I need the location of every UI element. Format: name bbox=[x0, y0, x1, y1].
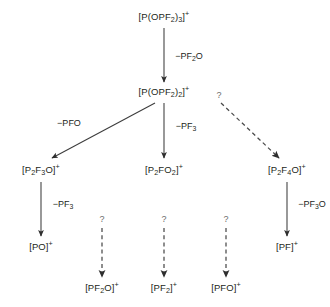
edge-n2-to-n5 bbox=[221, 103, 279, 158]
node-n10: [PF]+ bbox=[276, 242, 298, 252]
edge-label-unknown-e8: ? bbox=[223, 215, 228, 224]
edge-label-unknown-e4: ? bbox=[216, 91, 221, 100]
edge-n2-to-n3 bbox=[52, 103, 155, 158]
node-n3: [P2F3O]+ bbox=[22, 165, 60, 175]
node-n9: [PFO]+ bbox=[211, 283, 241, 293]
edge-layer bbox=[0, 0, 330, 307]
edge-label-e3: −PF3 bbox=[176, 122, 197, 131]
node-n2: [P(OPF2)2]+ bbox=[139, 87, 190, 97]
edge-label-e2: −PFO bbox=[57, 119, 81, 128]
edge-label-e9: −PF3O bbox=[298, 200, 326, 209]
node-n5: [P2F4O]+ bbox=[268, 165, 306, 175]
fragmentation-diagram: [P(OPF2)3]+[P(OPF2)2]+[P2F3O]+[P2FO2]+[P… bbox=[0, 0, 330, 307]
node-n1: [P(OPF2)3]+ bbox=[139, 12, 190, 22]
edge-label-e5: −PF3 bbox=[53, 200, 74, 209]
node-n8: [PF2]+ bbox=[151, 283, 177, 293]
node-n4: [P2FO2]+ bbox=[145, 165, 183, 175]
node-n7: [PF2O]+ bbox=[85, 283, 119, 293]
edge-label-unknown-e6: ? bbox=[99, 215, 104, 224]
node-n6: [PO]+ bbox=[29, 242, 53, 252]
edge-label-e1: −PF2O bbox=[175, 52, 203, 61]
edge-label-unknown-e7: ? bbox=[161, 215, 166, 224]
